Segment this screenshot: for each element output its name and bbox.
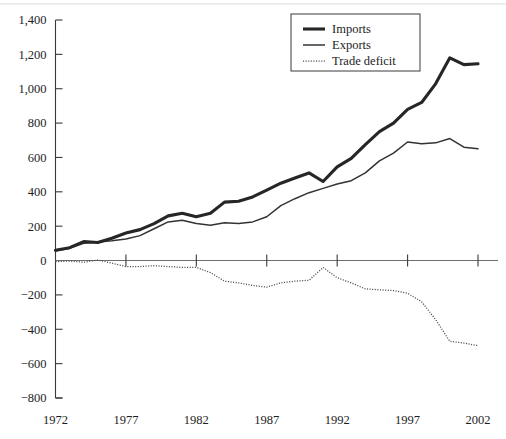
x-tick-label: 1977 — [113, 413, 138, 427]
series-line-trade-deficit — [56, 260, 479, 346]
y-tick-label: 400 — [28, 185, 47, 199]
legend-label-trade-deficit: Trade deficit — [332, 54, 396, 68]
plot-area — [56, 58, 479, 346]
legend-label-exports: Exports — [332, 38, 371, 52]
y-tick-label: 1,400 — [18, 13, 46, 27]
chart-figure: 1,4001,2001,0008006004002000−200−400−600… — [0, 0, 506, 439]
x-tick-label: 1987 — [254, 413, 279, 427]
x-axis: 1972197719821987199219972002 — [43, 255, 498, 427]
chart-legend: ImportsExportsTrade deficit — [291, 14, 420, 71]
y-axis-tick-labels: 1,4001,2001,0008006004002000−200−400−600… — [18, 13, 46, 405]
y-axis-ticks — [56, 20, 63, 398]
y-tick-label: −600 — [21, 357, 47, 371]
x-tick-label: 1982 — [184, 413, 209, 427]
series-line-imports — [56, 58, 479, 250]
y-tick-label: 0 — [40, 254, 46, 268]
legend-label-imports: Imports — [332, 22, 371, 36]
y-tick-label: 1,000 — [18, 82, 46, 96]
y-tick-label: 200 — [28, 220, 47, 234]
x-tick-label: 1992 — [325, 413, 350, 427]
x-tick-label: 2002 — [466, 413, 491, 427]
x-tick-label: 1997 — [395, 413, 420, 427]
y-tick-label: 600 — [28, 151, 47, 165]
x-axis-tick-labels: 1972197719821987199219972002 — [43, 413, 491, 427]
y-tick-label: −800 — [21, 391, 47, 405]
scan-artifact — [0, 3, 506, 5]
x-tick-label: 1972 — [43, 413, 68, 427]
y-axis: 1,4001,2001,0008006004002000−200−400−600… — [18, 13, 62, 405]
x-axis-ticks — [56, 255, 479, 398]
y-tick-label: 800 — [28, 116, 47, 130]
y-tick-label: 1,200 — [18, 48, 46, 62]
y-tick-label: −200 — [21, 288, 47, 302]
y-tick-label: −400 — [21, 323, 47, 337]
line-chart: 1,4001,2001,0008006004002000−200−400−600… — [0, 0, 506, 439]
